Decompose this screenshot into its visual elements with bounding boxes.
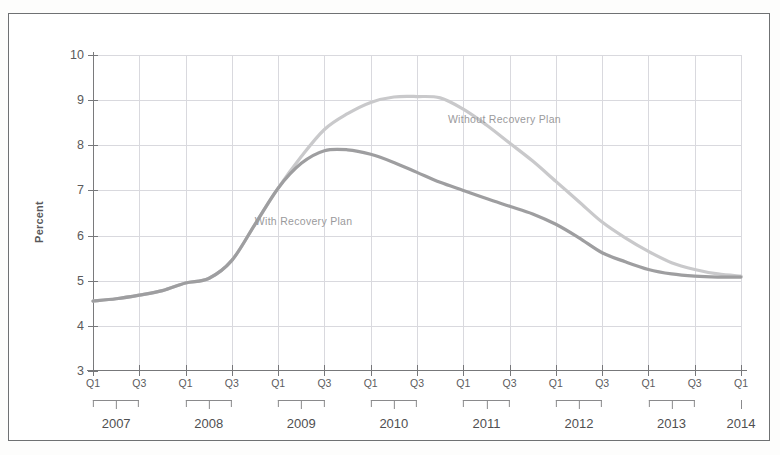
x-axis-year-label: 2009 — [278, 416, 324, 431]
x-axis-year-label: 2010 — [371, 416, 417, 431]
chart-frame: Percent 345678910 Q1Q3Q1Q3Q1Q3Q1Q3Q1Q3Q1… — [8, 13, 770, 441]
x-axis-quarter-label: Q1 — [364, 377, 378, 389]
series-line-with-recovery-plan — [93, 149, 741, 301]
series-annotation-label: With Recovery Plan — [255, 215, 353, 227]
y-axis-tick-label: 3 — [77, 364, 84, 378]
x-axis-year-label: 2013 — [648, 416, 694, 431]
series-annotation-label: Without Recovery Plan — [448, 113, 561, 125]
y-axis-tick-label: 8 — [77, 138, 84, 152]
year-group: 2007 — [93, 400, 139, 431]
x-axis-year-label: 2008 — [186, 416, 232, 431]
x-axis-year-label: 2007 — [93, 416, 139, 431]
x-axis-quarter-label: Q3 — [225, 377, 239, 389]
y-axis-title: Percent — [31, 180, 47, 270]
y-axis-tick-label: 9 — [77, 93, 84, 107]
y-axis-tick-label: 4 — [77, 319, 84, 333]
year-group: 2011 — [463, 400, 509, 431]
x-axis-quarter-label: Q3 — [410, 377, 424, 389]
x-axis-quarter-label: Q3 — [503, 377, 517, 389]
x-axis-year-label: 2012 — [556, 416, 602, 431]
x-axis-quarter-label: Q3 — [688, 377, 702, 389]
year-group: 2009 — [278, 400, 324, 431]
chart-screenshot: Percent 345678910 Q1Q3Q1Q3Q1Q3Q1Q3Q1Q3Q1… — [0, 0, 780, 455]
x-axis-quarter-label: Q1 — [549, 377, 563, 389]
year-bracket — [463, 400, 509, 411]
x-axis-quarter-label: Q1 — [271, 377, 285, 389]
year-group: 2010 — [371, 400, 417, 431]
year-bracket — [371, 400, 417, 411]
series-line-without-recovery-plan — [93, 96, 741, 301]
x-axis-tickmark — [741, 365, 742, 376]
x-axis-quarter-label: Q3 — [595, 377, 609, 389]
y-axis-tick-label: 7 — [77, 183, 84, 197]
y-axis-tick-label: 10 — [70, 48, 84, 62]
year-group: 2008 — [186, 400, 232, 431]
plot-area: 345678910 Q1Q3Q1Q3Q1Q3Q1Q3Q1Q3Q1Q3Q1Q3Q1… — [93, 55, 741, 371]
year-bracket — [186, 400, 232, 411]
x-axis-quarter-label: Q1 — [456, 377, 470, 389]
gridline-vertical — [741, 55, 742, 371]
year-bracket — [93, 400, 139, 411]
year-bracket — [278, 400, 324, 411]
series-lines — [93, 55, 741, 371]
x-axis-quarter-label: Q1 — [86, 377, 100, 389]
year-bracket — [648, 400, 694, 411]
x-axis-quarter-label: Q1 — [734, 377, 748, 389]
year-bracket — [556, 400, 602, 411]
x-axis-quarter-label: Q3 — [132, 377, 146, 389]
year-group: 2014 — [724, 400, 758, 431]
x-axis-year-label: 2011 — [463, 416, 509, 431]
x-axis-quarter-label: Q3 — [317, 377, 331, 389]
x-axis-quarter-label: Q1 — [641, 377, 655, 389]
year-group: 2013 — [648, 400, 694, 431]
year-group: 2012 — [556, 400, 602, 431]
year-bracket — [724, 400, 758, 411]
x-axis-year-label: 2014 — [724, 416, 758, 431]
x-axis-quarter-label: Q1 — [179, 377, 193, 389]
y-axis-tick-label: 5 — [77, 274, 84, 288]
y-axis-tick-label: 6 — [77, 229, 84, 243]
y-axis-title-text: Percent — [33, 177, 45, 267]
